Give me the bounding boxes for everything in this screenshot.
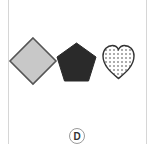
option-label-badge[interactable]: D [69, 128, 85, 144]
heart-shape-icon [103, 46, 134, 79]
diamond-shape-icon [10, 38, 56, 84]
pentagon-shape-icon [57, 43, 96, 81]
